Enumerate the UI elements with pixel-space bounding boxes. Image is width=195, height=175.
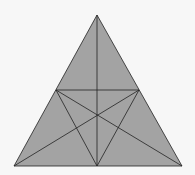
outer-triangle (14, 15, 182, 166)
triangle-diagram (0, 0, 195, 175)
